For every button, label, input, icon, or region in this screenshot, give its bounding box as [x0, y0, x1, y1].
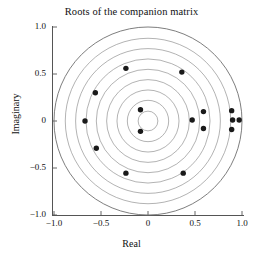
x-tick-label: −1.0	[34, 218, 74, 228]
y-tick-label: 1.0	[12, 21, 46, 31]
x-tick-label: 1.0	[222, 218, 262, 228]
data-point	[94, 146, 99, 151]
unit-circle-ring	[76, 49, 221, 194]
unit-circle-ring	[127, 100, 168, 141]
unit-circle-ring	[65, 38, 230, 203]
y-tick-label: −1.0	[12, 209, 46, 219]
data-point	[82, 118, 87, 123]
data-point	[138, 107, 143, 112]
unit-circle-ring	[117, 90, 179, 152]
data-point	[189, 117, 194, 122]
x-tick-label: 0	[128, 218, 168, 228]
unit-circle-ring	[54, 27, 242, 215]
data-point	[123, 170, 128, 175]
x-axis-label: Real	[0, 238, 263, 249]
concentric-circles	[54, 27, 242, 215]
y-axis-label: Imaginary	[10, 93, 21, 134]
chart-figure: Roots of the companion matrix −1.0−0.500…	[0, 0, 263, 258]
unit-circle-ring	[96, 69, 199, 172]
data-point	[93, 90, 98, 95]
y-axis-label-wrapper: Imaginary	[5, 54, 23, 174]
data-point	[201, 126, 206, 131]
data-point	[229, 127, 234, 132]
data-point	[138, 129, 143, 134]
data-point	[229, 108, 234, 113]
data-point	[230, 117, 235, 122]
data-point	[181, 170, 186, 175]
unit-circle-ring	[138, 111, 158, 131]
data-point	[179, 69, 184, 74]
data-point	[123, 66, 128, 71]
x-tick-label: −0.5	[81, 218, 121, 228]
x-tick-label: 0.5	[175, 218, 215, 228]
data-point	[201, 109, 206, 114]
unit-circle-ring	[107, 80, 190, 163]
data-point	[236, 117, 241, 122]
